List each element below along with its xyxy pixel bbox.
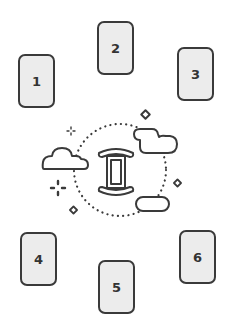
diamond-star-icon	[174, 179, 181, 186]
sparkle-icon	[67, 127, 75, 135]
cloud-icon	[43, 148, 88, 169]
diamond-star-icon	[141, 110, 149, 118]
gemini-illustration	[0, 0, 231, 331]
diamond-star-icon	[70, 206, 77, 213]
sparkle-icon	[51, 181, 65, 195]
cloud-icon	[134, 129, 177, 153]
gemini-icon	[99, 149, 133, 195]
pill-cloud-icon	[136, 197, 169, 211]
